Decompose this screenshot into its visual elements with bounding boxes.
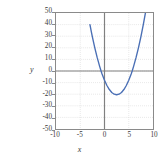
- y-tick-label: -10: [42, 79, 52, 86]
- x-tick-label: 5: [127, 132, 131, 139]
- parabola-curve: [56, 13, 153, 129]
- x-tick-label: -5: [77, 132, 83, 139]
- y-tick-label: 20: [45, 44, 52, 51]
- y-tick-label: 10: [45, 56, 52, 63]
- y-tick-label: -20: [42, 91, 52, 98]
- x-tick-label: 10: [150, 132, 157, 139]
- y-tick-label: 30: [45, 32, 52, 39]
- x-tick-label: -10: [50, 132, 60, 139]
- y-tick-label: -40: [42, 115, 52, 122]
- plot-area: [55, 12, 154, 130]
- y-axis-label: y: [30, 66, 34, 74]
- x-axis-label: x: [0, 146, 159, 154]
- x-axis-tick-labels: -10-50510: [55, 132, 154, 144]
- y-tick-label: 40: [45, 20, 52, 27]
- x-tick-label: 0: [103, 132, 107, 139]
- y-tick-label: -30: [42, 103, 52, 110]
- y-axis-tick-labels: 50403020100-10-20-30-40-50: [0, 12, 52, 130]
- y-tick-label: 50: [45, 8, 52, 15]
- figure-container: 50403020100-10-20-30-40-50 y -10-50510 x: [0, 0, 159, 162]
